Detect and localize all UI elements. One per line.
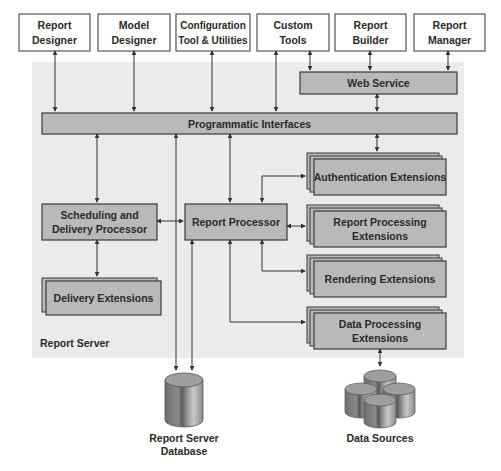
client-label: Designer (112, 34, 157, 46)
database-cylinder-icon (165, 373, 203, 427)
scheduling-label: Scheduling and (60, 209, 138, 221)
scheduling-label: Delivery Processor (52, 223, 147, 235)
report-processing-extensions-box: Report Processing Extensions (307, 205, 446, 247)
client-label: Manager (428, 34, 471, 46)
scheduling-delivery-processor-box: Scheduling and Delivery Processor (42, 204, 157, 240)
client-label: Report (38, 19, 72, 31)
data-sources-label: Data Sources (346, 432, 413, 444)
report-processor-label: Report Processor (192, 216, 280, 228)
data-sources-icon (345, 370, 415, 428)
report-processing-extensions-label: Extensions (352, 230, 408, 242)
delivery-extensions-label: Delivery Extensions (54, 292, 154, 304)
client-report-builder: Report Builder (335, 14, 406, 51)
database-label: Report Server (149, 432, 218, 444)
client-label: Report (354, 19, 388, 31)
report-processing-extensions-label: Report Processing (333, 216, 426, 228)
client-label: Report (433, 19, 467, 31)
architecture-diagram: Report Designer Model Designer Configura… (0, 0, 501, 471)
data-processing-extensions-label: Extensions (352, 332, 408, 344)
client-label: Builder (352, 34, 388, 46)
client-label: Custom (273, 19, 312, 31)
authentication-extensions-label: Authentication Extensions (314, 171, 447, 183)
report-server-label: Report Server (40, 337, 109, 349)
data-processing-extensions-box: Data Processing Extensions (307, 307, 446, 349)
client-label: Configuration (180, 20, 246, 31)
client-report-manager: Report Manager (414, 14, 485, 51)
rendering-extensions-label: Rendering Extensions (325, 273, 436, 285)
web-service-label: Web Service (347, 77, 409, 89)
client-configuration-tool: Configuration Tool & Utilities (176, 14, 250, 51)
client-label: Designer (32, 34, 77, 46)
authentication-extensions-box: Authentication Extensions (307, 153, 446, 195)
rendering-extensions-box: Rendering Extensions (307, 255, 446, 297)
client-report-designer: Report Designer (19, 14, 90, 51)
client-label: Tool & Utilities (178, 35, 248, 46)
client-label: Model (119, 19, 149, 31)
client-custom-tools: Custom Tools (257, 14, 329, 51)
programmatic-interfaces-label: Programmatic Interfaces (188, 118, 311, 130)
client-model-designer: Model Designer (98, 14, 170, 51)
report-processor-box: Report Processor (185, 204, 287, 240)
delivery-extensions-box: Delivery Extensions (42, 278, 161, 315)
data-processing-extensions-label: Data Processing (339, 318, 421, 330)
client-label: Tools (279, 34, 306, 46)
programmatic-interfaces-box: Programmatic Interfaces (42, 113, 457, 134)
web-service-box: Web Service (300, 72, 457, 94)
database-label: Database (161, 445, 208, 457)
